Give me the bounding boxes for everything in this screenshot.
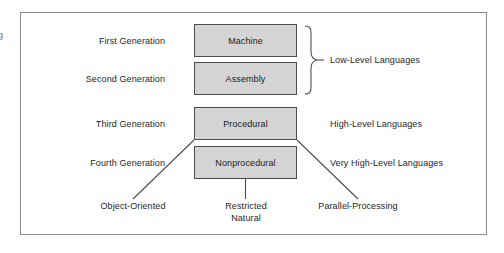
branch-label-object-oriented-line1: Object-Oriented <box>73 201 193 213</box>
connector-object-oriented <box>133 140 194 199</box>
branch-label-parallel-processing: Parallel-Processing <box>298 201 418 213</box>
branch-label-object-oriented: Object-Oriented <box>73 201 193 213</box>
branch-label-restricted-natural-line1: Restricted <box>186 201 306 213</box>
generation-label-2: Second Generation <box>35 74 165 84</box>
language-box-procedural: Procedural <box>194 107 297 140</box>
branch-label-parallel-processing-line1: Parallel-Processing <box>298 201 418 213</box>
branch-label-restricted-natural: Restricted Natural <box>186 201 306 224</box>
generation-label-3: Third Generation <box>35 119 165 129</box>
low-level-brace <box>305 26 317 94</box>
connector-parallel-processing <box>297 140 358 199</box>
language-box-nonprocedural: Nonprocedural <box>194 146 297 179</box>
language-box-machine: Machine <box>194 24 297 57</box>
figure-root: g First Generation Second Generation Thi… <box>0 0 504 253</box>
category-label-low-level: Low-Level Languages <box>330 55 420 65</box>
branch-label-restricted-natural-line2: Natural <box>186 213 306 225</box>
category-label-very-high-level: Very High-Level Languages <box>330 158 443 168</box>
generation-label-1: First Generation <box>35 36 165 46</box>
generation-label-4: Fourth Generation <box>35 158 165 168</box>
language-box-assembly: Assembly <box>194 62 297 95</box>
category-label-high-level: High-Level Languages <box>330 119 422 129</box>
